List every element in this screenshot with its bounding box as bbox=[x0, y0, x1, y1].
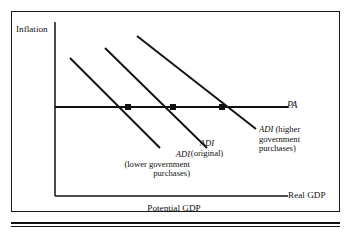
potential-gdp-label: Potential GDP bbox=[0, 203, 348, 213]
y-axis-label: Inflation bbox=[16, 24, 48, 34]
bottom-rule-thin bbox=[11, 226, 340, 227]
adi-original-label-note: (original) bbox=[191, 148, 223, 158]
pa-curve-label: PA bbox=[287, 100, 297, 111]
adi-original-label: ADI(original) bbox=[178, 139, 236, 158]
adi-lower-label: ADI(lower government purchases) bbox=[48, 150, 190, 179]
adi-higher-label: ADI (higher government purchases) bbox=[259, 125, 345, 154]
adi-lower-label-note: (lower government purchases) bbox=[124, 159, 190, 179]
adi-higher-label-head: ADI bbox=[259, 124, 273, 134]
figure-border bbox=[11, 11, 340, 212]
figure-page: Inflation PA ADI(lower government purcha… bbox=[0, 0, 348, 238]
bottom-rule-thick bbox=[11, 222, 340, 224]
x-axis-label: Real GDP bbox=[288, 190, 326, 200]
adi-original-label-head: ADI bbox=[200, 138, 214, 148]
